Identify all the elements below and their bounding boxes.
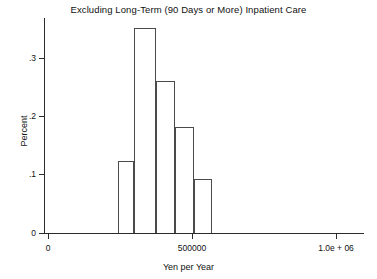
y-axis-line <box>44 18 45 234</box>
histogram-bar <box>194 179 212 233</box>
histogram-bar <box>156 81 175 233</box>
y-tick-label: .3 <box>6 53 36 63</box>
histogram-bar <box>118 161 134 233</box>
histogram-bar <box>134 28 156 233</box>
x-tick-label: 500000 <box>178 243 206 253</box>
x-tick-label: 1.0e + 06 <box>318 243 354 253</box>
x-tick-mark <box>192 234 193 239</box>
x-tick-mark <box>336 234 337 239</box>
x-axis-line <box>44 233 364 234</box>
chart-title: Excluding Long-Term (90 Days or More) In… <box>0 4 377 15</box>
x-tick-label: 0 <box>46 243 51 253</box>
y-tick-label: 0 <box>6 228 36 238</box>
x-tick-mark <box>48 234 49 239</box>
x-axis-title: Yen per Year <box>0 262 377 272</box>
y-tick-mark <box>39 174 44 175</box>
y-tick-mark <box>39 58 44 59</box>
y-tick-mark <box>39 116 44 117</box>
histogram-figure: Excluding Long-Term (90 Days or More) In… <box>0 0 377 279</box>
y-axis-title: Percent <box>19 91 29 171</box>
histogram-bar <box>175 127 194 233</box>
y-tick-mark <box>39 233 44 234</box>
